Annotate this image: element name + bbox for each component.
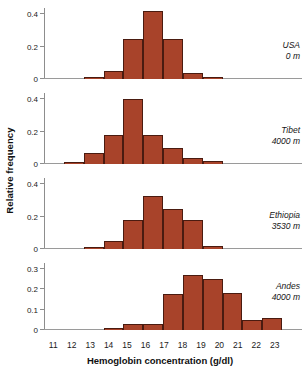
y-tick-label: 0.2 (27, 127, 38, 136)
histogram-bar (84, 247, 104, 249)
x-tick-label: 17 (159, 340, 168, 350)
y-tick-label: 0.4 (27, 95, 38, 104)
panel-caption-tibet: Tibet 4000 m (272, 125, 300, 147)
panel-name-tibet: Tibet (272, 125, 300, 136)
y-tick-label: 0.4 (27, 10, 38, 19)
panel-stack: 00.20.4 USA 0 m 00.20.4 Tibet 4000 m (18, 4, 302, 340)
panel-altitude-ethiopia: 3530 m (269, 221, 300, 232)
histogram-bar (163, 39, 183, 79)
histogram-bar (163, 294, 183, 330)
plot-area-andes: 00.10.20.3 (44, 263, 302, 330)
x-axis-ticks: 11121314151617181920212223 (44, 340, 284, 354)
histogram-bar (203, 77, 223, 79)
panel-name-usa: USA (283, 40, 300, 51)
histogram-bar (143, 135, 163, 164)
plot-area-tibet: 00.20.4 (44, 93, 302, 164)
panel-usa: 00.20.4 USA 0 m (18, 4, 302, 89)
panel-altitude-usa: 0 m (283, 51, 300, 62)
histogram-bar (203, 161, 223, 164)
y-axis-title: Relative frequency (0, 0, 18, 340)
x-tick-label: 12 (67, 340, 76, 350)
y-axis-title-text: Relative frequency (4, 127, 15, 213)
histogram-bar (123, 220, 143, 249)
y-tick-label: 0 (34, 160, 38, 169)
histogram-bar (183, 275, 203, 330)
histogram-bar (262, 318, 282, 330)
panel-name-andes: Andes (272, 281, 300, 292)
histogram-bar (84, 153, 104, 164)
x-tick-label: 22 (252, 340, 261, 350)
histogram-bar (183, 158, 203, 164)
x-tick-label: 14 (104, 340, 113, 350)
histogram-bar (104, 241, 124, 249)
x-axis-title: Hemoglobin concentration (g/dl) (18, 355, 302, 366)
histogram-bar (163, 148, 183, 164)
x-tick-label: 20 (215, 340, 224, 350)
histogram-bar (163, 209, 183, 249)
histogram-bar (223, 293, 243, 330)
x-tick-label: 23 (270, 340, 279, 350)
y-tick-label: 0 (34, 245, 38, 254)
x-tick-label: 13 (85, 340, 94, 350)
bars-andes (44, 263, 302, 330)
y-tick-label: 0.3 (27, 265, 38, 274)
plot-area-usa: 00.20.4 (44, 8, 302, 79)
y-tick-label: 0.2 (27, 42, 38, 51)
y-tick-label: 0.4 (27, 180, 38, 189)
x-tick-label: 19 (196, 340, 205, 350)
histogram-bar (242, 320, 262, 330)
panel-altitude-tibet: 4000 m (272, 136, 300, 147)
histogram-bar (203, 279, 223, 330)
x-tick-label: 18 (178, 340, 187, 350)
panel-andes: 00.10.20.3 Andes 4000 m (18, 259, 302, 340)
y-tick-label: 0.1 (27, 305, 38, 314)
panel-ethiopia: 00.20.4 Ethiopia 3530 m (18, 174, 302, 259)
panel-caption-ethiopia: Ethiopia 3530 m (269, 210, 300, 232)
x-tick-label: 11 (49, 340, 58, 350)
y-tick-label: 0 (34, 326, 38, 335)
panel-caption-andes: Andes 4000 m (272, 281, 300, 303)
bars-tibet (44, 93, 302, 164)
histogram-bar (183, 220, 203, 249)
x-tick-label: 15 (122, 340, 131, 350)
histogram-bar (64, 162, 84, 164)
x-tick-label: 21 (233, 340, 242, 350)
bars-ethiopia (44, 178, 302, 249)
histogram-figure: Relative frequency 00.20.4 USA 0 m 00.20… (0, 0, 302, 373)
histogram-bar (123, 39, 143, 79)
histogram-bar (183, 73, 203, 79)
panel-caption-usa: USA 0 m (283, 40, 300, 62)
panel-name-ethiopia: Ethiopia (269, 210, 300, 221)
panel-tibet: 00.20.4 Tibet 4000 m (18, 89, 302, 174)
histogram-bar (123, 99, 143, 164)
panel-altitude-andes: 4000 m (272, 292, 300, 303)
plot-area-ethiopia: 00.20.4 (44, 178, 302, 249)
histogram-bar (104, 135, 124, 164)
histogram-bar (143, 196, 163, 249)
histogram-bar (84, 77, 104, 79)
y-tick-label: 0 (34, 75, 38, 84)
histogram-bar (104, 328, 124, 330)
histogram-bar (203, 246, 223, 249)
x-tick-label: 16 (141, 340, 150, 350)
histogram-bar (143, 324, 163, 330)
y-tick-label: 0.2 (27, 285, 38, 294)
histogram-bar (143, 11, 163, 79)
y-tick-label: 0.2 (27, 212, 38, 221)
histogram-bar (104, 71, 124, 79)
histogram-bar (123, 324, 143, 330)
bars-usa (44, 8, 302, 79)
